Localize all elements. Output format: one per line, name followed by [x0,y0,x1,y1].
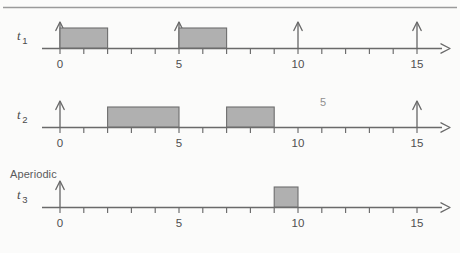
axis-tick-label-t2-0: 0 [57,137,63,149]
axis-tick-label-t1-0: 0 [57,58,63,70]
row-label-t1-subscript: 1 [21,35,28,46]
timing-diagram-canvas: 051015051015051015 [0,0,460,253]
axis-tick-label-t1-5: 5 [176,58,182,70]
axis-end-arrow-t2 [441,123,450,132]
axis-tick-label-t1-10: 10 [292,58,305,70]
axis-end-arrow-t1 [441,44,450,53]
row-label-t2: t2 [17,107,28,125]
row-label-t2-subscript: 2 [21,114,28,125]
axis-tick-label-t2-5: 5 [176,137,182,149]
row-label-t3: t3 [17,187,28,205]
axis-tick-label-t3-5: 5 [176,217,182,229]
timeline-row-t1: 051015 [42,22,450,70]
execution-block-t2-1 [227,107,275,127]
axis-end-arrow-t3 [441,203,450,212]
axis-tick-label-t3-10: 10 [292,217,305,229]
timeline-row-t2: 051015 [42,101,450,149]
axis-tick-label-t2-15: 15 [411,137,424,149]
axis-tick-label-t3-0: 0 [57,217,63,229]
execution-block-t1-0 [60,28,108,48]
timing-diagram-figure: 051015051015051015 t1 t2 Aperiodic t3 5 [0,0,460,253]
execution-block-t1-1 [179,28,227,48]
row-label-t3-subscript: 3 [21,194,28,205]
execution-block-t3-0 [274,187,298,207]
axis-tick-label-t3-15: 15 [411,217,424,229]
axis-tick-label-t1-15: 15 [411,58,424,70]
axis-tick-label-t2-10: 10 [292,137,305,149]
section-label-aperiodic: Aperiodic [10,168,57,180]
stray-scan-artifact-label: 5 [320,96,326,108]
execution-block-t2-0 [108,107,179,127]
row-label-t1: t1 [17,28,28,46]
timeline-row-t3: 051015 [42,181,450,229]
